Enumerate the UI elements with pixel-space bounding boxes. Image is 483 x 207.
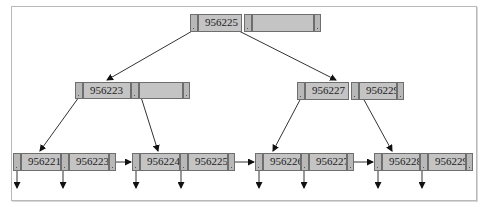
leaf-node-4: 956228 956229 [374, 153, 473, 171]
pointer-cell [374, 153, 382, 171]
pointer-cell [131, 82, 139, 99]
edge-root-right [237, 30, 336, 80]
pointer-cell [420, 153, 428, 171]
pointer-cell [61, 153, 69, 171]
pointer-cell [180, 153, 188, 171]
key-cell: 956225 [188, 153, 228, 171]
edge-right-leaf3 [273, 98, 301, 151]
internal-node-right: 956227 956229 [297, 82, 404, 100]
key-cell: 956229 [428, 153, 466, 171]
key-cell: 956227 [309, 153, 347, 171]
key-cell: 956224 [140, 153, 180, 171]
key-cell: 956221 [21, 153, 61, 171]
edge-right-leaf4 [363, 98, 392, 151]
pointer-cell [301, 153, 309, 171]
pointer-cell [314, 14, 321, 32]
pointer-cell [397, 82, 404, 100]
pointer-cell [297, 82, 305, 100]
pointer-cell [228, 153, 235, 171]
pointer-cell [244, 14, 252, 32]
leaf-node-1: 956221 956223 [13, 153, 116, 171]
key-cell-empty [252, 14, 314, 32]
internal-node-left: 956223 [75, 82, 190, 99]
key-cell: 956229 [359, 82, 397, 100]
pointer-cell [466, 153, 473, 171]
pointer-cell [183, 82, 190, 99]
edge-root-left [107, 30, 194, 80]
key-cell: 956225 [198, 14, 242, 32]
key-cell: 956227 [305, 82, 349, 100]
key-cell: 956223 [83, 82, 131, 99]
key-cell: 956226 [263, 153, 301, 171]
pointer-cell [190, 14, 198, 32]
key-cell: 956228 [382, 153, 420, 171]
pointer-cell [255, 153, 263, 171]
root-node: 956225 [190, 14, 321, 32]
pointer-cell [75, 82, 83, 99]
pointer-cell [109, 153, 116, 171]
pointer-cell [347, 153, 354, 171]
edge-left-leaf1 [40, 97, 79, 151]
edge-left-leaf2 [141, 97, 158, 151]
leaf-node-2: 956224 956225 [132, 153, 235, 171]
pointer-cell [132, 153, 140, 171]
key-cell-empty [139, 82, 183, 99]
leaf-node-3: 956226 956227 [255, 153, 354, 171]
pointer-cell [13, 153, 21, 171]
key-cell: 956223 [69, 153, 109, 171]
pointer-cell [351, 82, 359, 100]
